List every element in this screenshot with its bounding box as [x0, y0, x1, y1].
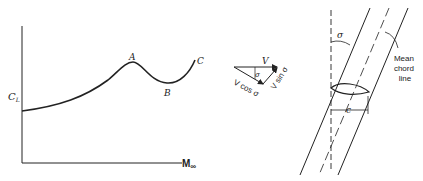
trailing-edge [338, 8, 408, 175]
point-c-label: C [197, 56, 204, 66]
swept-wing-diagram: σ c Mean chord line [300, 8, 416, 175]
v-sin-label: V sin σ [269, 65, 290, 91]
sigma-arc [331, 41, 350, 45]
cl-vs-mach-plot: CL M∞ A B C [8, 26, 204, 171]
v-label: V [262, 56, 270, 66]
leading-edge [300, 8, 370, 175]
wing-sigma-label: σ [337, 30, 344, 40]
v-cos-label: V cos σ [232, 78, 260, 99]
point-b-label: B [163, 88, 171, 98]
y-axis-label: CL [8, 91, 20, 103]
velocity-vector-diagram: V σ V cos σ V sin σ [232, 56, 290, 99]
vector-sigma-label: σ [255, 71, 260, 79]
cl-curve [22, 60, 195, 111]
x-axis-label: M∞ [182, 158, 196, 171]
mean-chord-leader [385, 32, 398, 48]
diagram-canvas: CL M∞ A B C V σ V cos σ V sin σ σ c [0, 0, 423, 181]
mean-chord-label: Mean chord line [394, 54, 416, 83]
airfoil-section [331, 84, 369, 95]
mean-chord-line [319, 8, 389, 175]
point-a-label: A [128, 52, 136, 62]
chord-label: c [346, 105, 351, 115]
